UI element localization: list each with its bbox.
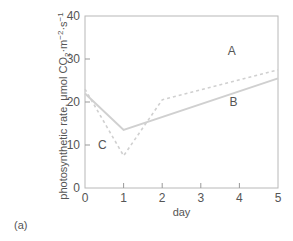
panel-label: (a)	[14, 219, 27, 231]
series-label-b: B	[230, 95, 238, 109]
axes	[85, 16, 278, 188]
series-lines	[85, 70, 278, 156]
x-tick-label: 1	[120, 191, 127, 205]
chart: 010203040012345 ABC day photosynthetic r…	[0, 0, 293, 241]
x-tick-label: 0	[82, 191, 89, 205]
series-label-a: A	[228, 44, 236, 58]
x-tick-label: 5	[275, 191, 282, 205]
x-tick-label: 2	[159, 191, 166, 205]
x-axis-title: day	[173, 206, 191, 218]
series-a-line	[85, 70, 278, 156]
series-b-line	[85, 78, 278, 130]
x-tick-label: 4	[236, 191, 243, 205]
y-tick-label: 0	[73, 181, 80, 195]
x-tick-label: 3	[197, 191, 204, 205]
series-label-c: C	[98, 138, 107, 152]
y-tick-label: 40	[67, 9, 81, 23]
plot-frame	[85, 16, 278, 188]
